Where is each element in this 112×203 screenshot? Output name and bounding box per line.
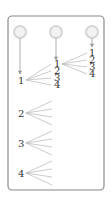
draw-circles xyxy=(14,26,98,38)
left-labels: 1 2 3 4 xyxy=(18,75,24,179)
arrow-down-icon xyxy=(19,71,22,74)
left-label-3: 3 xyxy=(18,138,24,149)
right-label-4: 4 xyxy=(89,68,95,79)
middle-label-4: 4 xyxy=(54,79,60,90)
tree-diagram: 1 2 3 4 1 2 3 4 1 2 3 4 xyxy=(0,0,112,203)
left-label-2: 2 xyxy=(18,108,24,119)
circle-icon xyxy=(86,26,98,38)
middle-labels: 1 2 3 4 xyxy=(54,58,60,90)
right-labels: 1 2 3 4 xyxy=(89,47,95,79)
circle-icon xyxy=(50,26,62,38)
left-label-1: 1 xyxy=(18,75,24,86)
circle-icon xyxy=(14,26,26,38)
left-label-4: 4 xyxy=(18,168,24,179)
